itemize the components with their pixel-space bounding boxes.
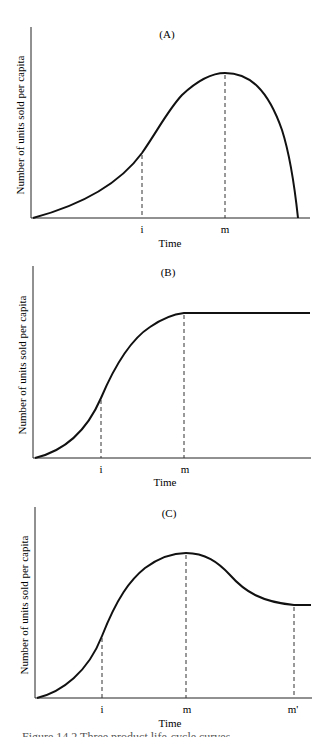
tick-m: m — [181, 463, 190, 475]
chart-a: (A) Number of units sold per capita i m … — [14, 27, 310, 249]
x-axis-label: Time — [159, 237, 182, 249]
y-axis-label: Number of units sold per capita — [16, 295, 28, 434]
chart-c: (C) Number of units sold per capita i m … — [18, 507, 312, 729]
curve — [33, 73, 298, 218]
chart-title: (B) — [161, 266, 176, 279]
tick-i: i — [100, 703, 103, 715]
tick-m: m — [221, 223, 230, 235]
y-axis-label: Number of units sold per capita — [18, 535, 30, 674]
chart-b: (B) Number of units sold per capita i m … — [16, 266, 311, 488]
tick-m-prime: m' — [288, 703, 299, 715]
chart-title: (C) — [162, 507, 177, 520]
x-axis-label: Time — [154, 476, 177, 488]
figure: (A) Number of units sold per capita i m … — [0, 0, 332, 737]
tick-i: i — [140, 223, 143, 235]
x-axis-label: Time — [159, 717, 182, 729]
tick-i: i — [99, 463, 102, 475]
curve — [35, 313, 310, 458]
tick-m: m — [183, 703, 192, 715]
figure-caption: Figure 14.2 Three product life-cycle cur… — [22, 730, 230, 737]
y-axis-label: Number of units sold per capita — [14, 55, 26, 194]
curve — [37, 553, 311, 698]
chart-title: (A) — [159, 28, 175, 41]
